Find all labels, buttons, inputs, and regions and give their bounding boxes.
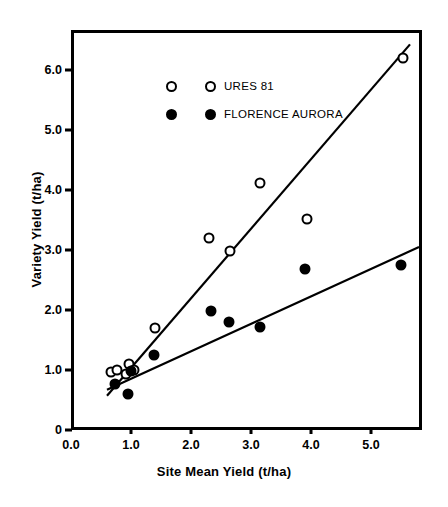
data-point-filled bbox=[205, 306, 216, 317]
data-point-filled bbox=[126, 366, 137, 377]
x-tick-label: 0.0 bbox=[48, 438, 94, 452]
data-point-filled bbox=[223, 317, 234, 328]
x-axis-title: Site Mean Yield (t/ha) bbox=[0, 464, 448, 479]
x-tick-label: 5.0 bbox=[348, 438, 394, 452]
regression-line bbox=[107, 247, 419, 390]
data-point-filled bbox=[396, 260, 407, 271]
data-point-open bbox=[397, 53, 408, 64]
data-point-filled bbox=[300, 264, 311, 275]
legend-item-florence-aurora: FLORENCE AURORA bbox=[166, 103, 343, 125]
y-tick-label: 6.0 bbox=[22, 63, 62, 77]
x-tick-label: 3.0 bbox=[228, 438, 274, 452]
legend-label-florence-aurora: FLORENCE AURORA bbox=[224, 108, 343, 120]
data-point-filled bbox=[123, 389, 134, 400]
filled-circle-icon bbox=[205, 109, 216, 120]
scatter-chart-figure: 01.02.03.04.05.06.0 0.01.02.03.04.05.0 U… bbox=[0, 0, 448, 507]
data-point-open bbox=[301, 213, 312, 224]
data-point-filled bbox=[148, 350, 159, 361]
x-tick-label: 4.0 bbox=[288, 438, 334, 452]
x-tick-label: 2.0 bbox=[168, 438, 214, 452]
data-point-filled bbox=[255, 321, 266, 332]
data-point-filled bbox=[109, 378, 120, 389]
data-point-open bbox=[150, 323, 161, 334]
legend-label-ures-81: URES 81 bbox=[224, 80, 274, 92]
filled-circle-icon bbox=[166, 109, 177, 120]
open-circle-icon bbox=[166, 81, 177, 92]
data-point-open bbox=[255, 177, 266, 188]
legend-markers-open bbox=[166, 81, 224, 92]
legend-item-ures-81: URES 81 bbox=[166, 75, 343, 97]
legend: URES 81 FLORENCE AURORA bbox=[166, 75, 343, 131]
y-tick-label: 1.0 bbox=[22, 363, 62, 377]
data-point-open bbox=[225, 246, 236, 257]
open-circle-icon bbox=[205, 81, 216, 92]
plot-frame: URES 81 FLORENCE AURORA bbox=[71, 30, 422, 430]
x-tick-label: 1.0 bbox=[108, 438, 154, 452]
y-axis-title: Variety Yield (t/ha) bbox=[29, 110, 44, 350]
data-point-open bbox=[204, 233, 215, 244]
y-tick-label: 0 bbox=[22, 423, 62, 437]
legend-markers-filled bbox=[166, 109, 224, 120]
